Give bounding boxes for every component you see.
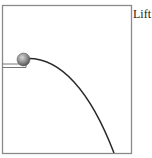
lift-label: Lift bbox=[133, 7, 151, 22]
projectile-diagram: Lift bbox=[0, 0, 152, 158]
diagram-canvas bbox=[0, 0, 152, 158]
frame-box bbox=[3, 6, 132, 154]
trajectory-curve bbox=[28, 58, 114, 153]
ball-icon bbox=[17, 53, 30, 66]
